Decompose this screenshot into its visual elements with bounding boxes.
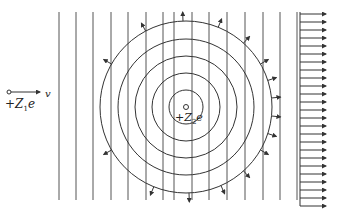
incoming-particle <box>7 90 40 94</box>
radial-arrow-icon <box>260 60 268 65</box>
particle-icon <box>7 90 11 94</box>
charge-suffix: e <box>196 111 203 124</box>
radial-arrow-icon <box>150 187 153 195</box>
radial-arrow-icon <box>272 116 281 117</box>
radial-arrow-icon <box>260 150 268 155</box>
radial-arrow-icon <box>218 19 221 27</box>
radial-arrow-icon <box>141 23 145 31</box>
radial-arrow-icon <box>104 150 112 155</box>
velocity-label: v <box>45 88 51 99</box>
radial-arrow-icon <box>244 36 250 43</box>
incoming-charge-label: +Z1e <box>5 97 35 113</box>
arrow-column <box>300 12 326 206</box>
charge-suffix: e <box>28 97 35 111</box>
target-charge-label: +Z2e <box>175 111 203 126</box>
radial-arrow-icon <box>104 60 112 65</box>
vertical-field-lines <box>59 12 297 200</box>
charge-prefix: +Z <box>5 97 23 111</box>
radial-arrow-icon <box>268 78 277 81</box>
radial-arrow-icon <box>268 134 277 137</box>
field-diagram <box>0 0 340 217</box>
radial-arrow-icon <box>221 186 225 194</box>
radial-arrow-icon <box>244 171 250 178</box>
radial-arrow-icon <box>272 97 281 98</box>
nucleus-icon <box>184 105 189 110</box>
charge-prefix: +Z <box>175 111 192 124</box>
